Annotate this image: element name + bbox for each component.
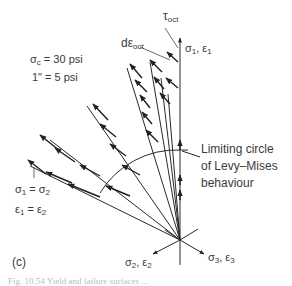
sigma2-axis	[153, 240, 180, 254]
sigma3-eps3-label: σ3, ε3	[208, 251, 235, 267]
figure-caption: Fig. 10.54 Yield and failure surfaces ..…	[8, 276, 148, 286]
limiting-circle-label: Limiting circle of Levy–Mises behaviour	[201, 141, 278, 192]
inch-scale-param: 1" = 5 psi	[32, 71, 78, 83]
sigma2-eps2-label: σ2, ε2	[125, 256, 152, 272]
sigma1-eps1-label: σ1, ε1	[185, 42, 212, 58]
sigma3-axis	[180, 240, 204, 254]
d-eps-oct-label: dεoct	[121, 37, 144, 53]
tau-oct-label: τoct	[163, 10, 178, 26]
panel-label: (c)	[12, 256, 26, 268]
eps1-eq-eps2-label: ε1 = ε2	[15, 203, 46, 219]
sigma-c-param: σc = 30 psi	[30, 53, 83, 69]
sigma1-eq-sigma2-label: σ1 = σ2	[15, 183, 50, 199]
